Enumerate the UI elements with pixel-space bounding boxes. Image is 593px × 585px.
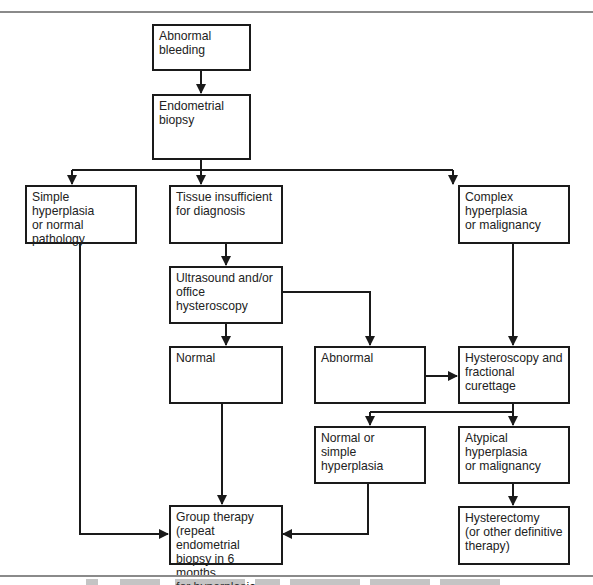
node-complex-hyperplasia: Complex hyperplasia or malignancy xyxy=(458,185,570,244)
figure-caption-truncated xyxy=(0,579,593,585)
top-rule xyxy=(0,11,593,13)
node-normal: Normal xyxy=(169,346,283,404)
node-abnormal-bleeding: Abnormal bleeding xyxy=(152,24,251,71)
node-endometrial-biopsy: Endometrial biopsy xyxy=(152,94,251,160)
node-abnormal: Abnormal xyxy=(314,346,426,404)
node-group-therapy: Group therapy (repeat endometrial biopsy… xyxy=(169,505,283,565)
edge-simple-group xyxy=(80,243,168,534)
node-hysteroscopy-curettage: Hysteroscopy and fractional curettage xyxy=(458,346,570,404)
edge-ultrasound-abnormal xyxy=(282,292,370,345)
bottom-rule xyxy=(0,575,593,577)
node-normal-or-simple-hyperplasia: Normal or simple hyperplasia xyxy=(314,426,426,484)
node-tissue-insufficient: Tissue insufficient for diagnosis xyxy=(169,185,283,244)
node-simple-hyperplasia: Simple hyperplasia or normal pathology xyxy=(25,185,137,244)
edge-normalsimple-group xyxy=(283,483,368,534)
node-hysterectomy: Hysterectomy (or other definitive therap… xyxy=(458,506,570,565)
connector-lines xyxy=(0,0,593,585)
node-atypical-hyperplasia: Atypical hyperplasia or malignancy xyxy=(458,426,570,484)
node-ultrasound: Ultrasound and/or office hysteroscopy xyxy=(169,266,283,324)
